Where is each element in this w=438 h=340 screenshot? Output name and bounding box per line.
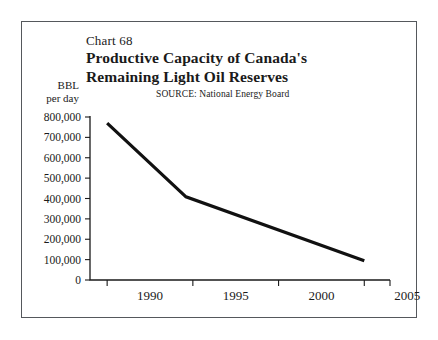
y-tick-label: 0 [75, 274, 81, 286]
figure-root: Chart 68 Productive Capacity of Canada's… [0, 0, 438, 340]
x-axis-tick-marks [107, 280, 390, 286]
y-tick-label: 300,000 [44, 213, 82, 226]
y-tick-label: 600,000 [44, 152, 82, 165]
series-line-productive-capacity [107, 123, 364, 261]
x-tick-label: 2000 [308, 288, 334, 303]
data-series-group [107, 123, 364, 261]
y-tick-label: 700,000 [44, 131, 82, 144]
x-axis-tick-labels: 1990199520002005 [137, 288, 420, 303]
x-tick-label: 2005 [394, 288, 420, 303]
y-tick-label: 200,000 [44, 233, 82, 246]
x-tick-label: 1995 [223, 288, 249, 303]
y-tick-label: 800,000 [44, 111, 82, 124]
x-tick-label: 1990 [137, 288, 163, 303]
y-axis-tick-marks [85, 117, 90, 280]
y-tick-label: 400,000 [44, 193, 82, 206]
chart-plot-area: 0100,000200,000300,000400,000500,000600,… [0, 0, 438, 340]
y-tick-label: 500,000 [44, 172, 82, 185]
y-axis-tick-labels: 0100,000200,000300,000400,000500,000600,… [44, 111, 82, 286]
y-tick-label: 100,000 [44, 254, 82, 267]
